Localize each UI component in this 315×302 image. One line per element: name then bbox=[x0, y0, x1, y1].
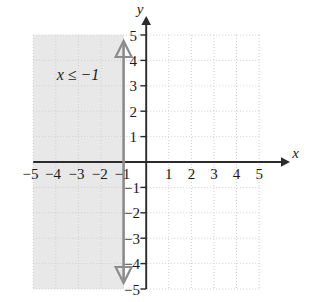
y-tick-label-3: 3 bbox=[130, 78, 138, 94]
y-tick-label--4: −4 bbox=[124, 256, 140, 272]
inequality-annotation-label: x ≤ −1 bbox=[56, 66, 100, 83]
x-tick-label-2: 2 bbox=[188, 166, 196, 182]
x-tick-label--4: −4 bbox=[45, 166, 61, 182]
y-tick-label-1: 1 bbox=[130, 129, 138, 145]
x-tick-label--2: −2 bbox=[92, 166, 108, 182]
y-tick-label-4: 4 bbox=[130, 53, 138, 69]
graph-figure: x y −5 −4 −3 −2 −1 1 2 3 4 5 5 4 3 2 1 −… bbox=[0, 0, 315, 302]
y-axis-label: y bbox=[135, 1, 144, 17]
x-tick-label--5: −5 bbox=[23, 166, 39, 182]
coordinate-plane-svg: x y −5 −4 −3 −2 −1 1 2 3 4 5 5 4 3 2 1 −… bbox=[0, 0, 315, 302]
y-tick-label--2: −2 bbox=[124, 205, 140, 221]
y-tick-label--5: −5 bbox=[124, 282, 140, 298]
y-tick-label--3: −3 bbox=[124, 231, 140, 247]
x-tick-label-1: 1 bbox=[165, 166, 173, 182]
y-tick-label-5: 5 bbox=[130, 28, 138, 44]
x-tick-label-3: 3 bbox=[210, 166, 218, 182]
y-tick-label--1: −1 bbox=[124, 180, 140, 196]
x-tick-label--3: −3 bbox=[69, 166, 85, 182]
x-axis-label: x bbox=[291, 145, 299, 161]
x-tick-label-5: 5 bbox=[255, 166, 263, 182]
y-tick-label-2: 2 bbox=[130, 104, 138, 120]
x-tick-label-4: 4 bbox=[233, 166, 241, 182]
